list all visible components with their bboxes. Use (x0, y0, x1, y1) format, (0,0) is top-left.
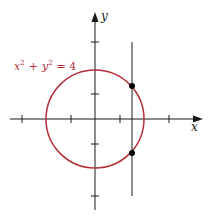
equation-label: x2+y2= 4 (14, 59, 76, 73)
intersection-point-upper (129, 83, 135, 89)
diagram-canvas: y x x2+y2= 4 (0, 0, 210, 218)
y-axis-label: y (100, 9, 108, 23)
x-axis-label: x (191, 120, 198, 134)
circle-vertical-line-diagram: y x x2+y2= 4 (0, 0, 210, 218)
intersection-point-lower (129, 150, 135, 156)
y-axis-arrow-icon (92, 12, 99, 22)
